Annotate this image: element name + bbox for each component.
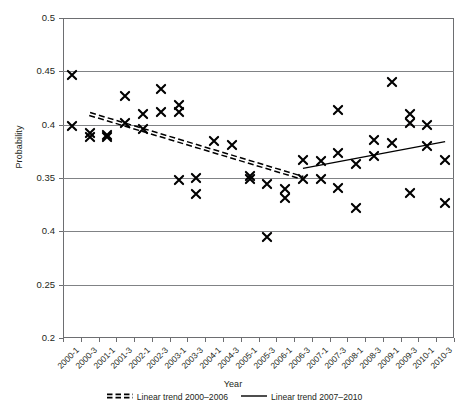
chart-legend: Linear trend 2000–2006Linear trend 2007–… [0, 392, 469, 402]
x-axis-tick-mark [99, 338, 100, 342]
y-axis-tick-label: 0.5 [15, 12, 55, 23]
legend-label: Linear trend 2000–2006 [137, 392, 228, 402]
x-axis-tick-mark [276, 338, 277, 342]
x-axis-tick-mark [241, 338, 242, 342]
x-axis-tick-mark [259, 338, 260, 342]
x-axis-tick-mark [134, 338, 135, 342]
trend-lines [63, 18, 454, 338]
legend-entry: Linear trend 2007–2010 [241, 392, 362, 402]
x-axis-tick-mark [294, 338, 295, 342]
x-axis-tick-mark [365, 338, 366, 342]
x-axis-tick-mark [116, 338, 117, 342]
y-axis-tick-label: 0.35 [15, 172, 55, 183]
x-axis-tick-mark [418, 338, 419, 342]
x-axis-tick-mark [347, 338, 348, 342]
y-axis-tick-label: 0.2 [15, 332, 55, 343]
x-axis-tick-mark [312, 338, 313, 342]
x-axis-tick-mark [383, 338, 384, 342]
x-axis-tick-mark [81, 338, 82, 342]
x-axis-tick-mark [63, 338, 64, 342]
legend-label: Linear trend 2007–2010 [271, 392, 362, 402]
y-axis-tick-label: 0.25 [15, 279, 55, 290]
x-axis-tick-mark [223, 338, 224, 342]
legend-solid-line-swatch [241, 392, 267, 402]
y-axis-tick-label: 0.45 [15, 65, 55, 76]
x-axis-tick-mark [330, 338, 331, 342]
x-axis-tick-mark [205, 338, 206, 342]
legend-entry: Linear trend 2000–2006 [107, 392, 228, 402]
probability-scatter-chart: Probability 0.50.450.40.350.40.250.2 200… [0, 0, 469, 417]
y-axis-tick-label: 0.4 [15, 225, 55, 236]
x-axis-title: Year [198, 379, 268, 389]
x-axis-tick-mark [454, 338, 455, 342]
x-axis-tick-mark [152, 338, 153, 342]
x-axis-tick-mark [187, 338, 188, 342]
x-axis-tick-mark [170, 338, 171, 342]
y-axis-tick-label: 0.4 [15, 119, 55, 130]
x-axis-tick-mark [436, 338, 437, 342]
legend-dashed-line-swatch [107, 392, 133, 402]
x-axis-tick-mark [401, 338, 402, 342]
